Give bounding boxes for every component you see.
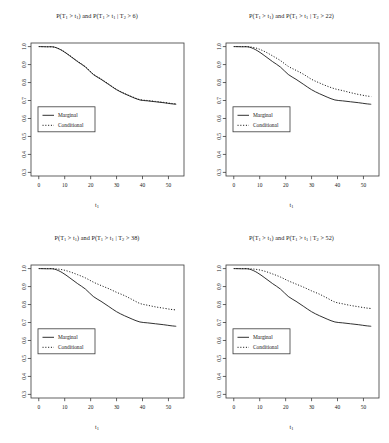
x-tick-label: 40 (334, 403, 340, 409)
legend-label-marginal: Marginal (58, 112, 78, 118)
curve-marginal (233, 47, 370, 105)
y-tick-label: 0.3 (21, 169, 27, 176)
x-axis-label: t1 (195, 424, 389, 430)
y-tick-label: 0.7 (21, 318, 27, 325)
chart-panel-3: P(T1 > t1) and P(T1 > t1 | T2 > 38)0.30.… (0, 222, 194, 443)
x-tick-label: 10 (62, 182, 68, 188)
x-tick-label: 30 (114, 182, 120, 188)
plot-area: 0.30.40.50.60.70.80.91.001020304050Margi… (195, 222, 389, 443)
plot-area: 0.30.40.50.60.70.80.91.001020304050Margi… (195, 0, 389, 221)
x-tick-label: 50 (166, 182, 172, 188)
chart-panel-2: P(T1 > t1) and P(T1 > t1 | T2 > 22)0.30.… (195, 0, 389, 221)
x-tick-label: 50 (360, 182, 366, 188)
legend-label-marginal: Marginal (253, 112, 273, 118)
y-tick-label: 0.7 (215, 97, 221, 104)
x-axis-label: t1 (195, 202, 389, 208)
y-tick-label: 0.8 (215, 300, 221, 307)
curve-marginal (233, 268, 370, 326)
x-tick-label: 30 (308, 182, 314, 188)
x-axis-label: t1 (0, 424, 194, 430)
y-tick-label: 0.5 (215, 354, 221, 361)
x-tick-label: 30 (114, 403, 120, 409)
y-tick-label: 0.4 (21, 151, 27, 158)
y-tick-label: 0.4 (21, 372, 27, 379)
y-tick-label: 0.7 (21, 97, 27, 104)
curve-conditional (233, 268, 370, 308)
x-tick-label: 40 (140, 182, 146, 188)
x-tick-label: 10 (257, 403, 263, 409)
y-tick-label: 0.5 (215, 133, 221, 140)
y-tick-label: 1.0 (215, 43, 221, 50)
plot-area: 0.30.40.50.60.70.80.91.001020304050Margi… (0, 0, 194, 221)
y-tick-label: 0.5 (21, 354, 27, 361)
legend-label-marginal: Marginal (253, 334, 273, 340)
legend-label-conditional: Conditional (253, 344, 279, 350)
x-tick-label: 20 (282, 182, 288, 188)
y-tick-label: 0.5 (21, 133, 27, 140)
x-axis-label: t1 (0, 202, 194, 208)
y-tick-label: 0.9 (215, 61, 221, 68)
legend-label-marginal: Marginal (58, 334, 78, 340)
x-tick-label: 20 (88, 182, 94, 188)
y-tick-label: 0.7 (215, 318, 221, 325)
legend-label-conditional: Conditional (58, 122, 84, 128)
plot-area: 0.30.40.50.60.70.80.91.001020304050Margi… (0, 222, 194, 443)
y-tick-label: 0.8 (21, 300, 27, 307)
y-tick-label: 0.3 (21, 390, 27, 397)
x-tick-label: 10 (62, 403, 68, 409)
y-tick-label: 1.0 (21, 43, 27, 50)
x-tick-label: 10 (257, 182, 263, 188)
y-tick-label: 0.3 (215, 169, 221, 176)
figure-grid: P(T1 > t1) and P(T1 > t1 | T2 > 6)0.30.4… (0, 0, 389, 443)
y-tick-label: 1.0 (21, 264, 27, 271)
x-tick-label: 50 (166, 403, 172, 409)
curve-conditional (39, 268, 176, 309)
y-tick-label: 0.4 (215, 372, 221, 379)
x-tick-label: 0 (37, 403, 40, 409)
chart-panel-4: P(T1 > t1) and P(T1 > t1 | T2 > 52)0.30.… (195, 222, 389, 443)
curve-conditional (39, 47, 176, 104)
x-tick-label: 40 (334, 182, 340, 188)
x-tick-label: 20 (282, 403, 288, 409)
y-tick-label: 0.9 (21, 61, 27, 68)
curve-conditional (233, 47, 370, 97)
y-tick-label: 0.9 (21, 282, 27, 289)
y-tick-label: 1.0 (215, 264, 221, 271)
x-tick-label: 40 (140, 403, 146, 409)
y-tick-label: 0.6 (21, 115, 27, 122)
x-tick-label: 20 (88, 403, 94, 409)
x-tick-label: 50 (360, 403, 366, 409)
y-tick-label: 0.8 (215, 79, 221, 86)
y-tick-label: 0.6 (215, 336, 221, 343)
y-tick-label: 0.6 (21, 336, 27, 343)
curve-marginal (39, 268, 176, 326)
y-tick-label: 0.4 (215, 151, 221, 158)
y-tick-label: 0.8 (21, 79, 27, 86)
x-tick-label: 0 (37, 182, 40, 188)
x-tick-label: 0 (232, 182, 235, 188)
legend-label-conditional: Conditional (253, 122, 279, 128)
y-tick-label: 0.6 (215, 115, 221, 122)
x-tick-label: 30 (308, 403, 314, 409)
chart-panel-1: P(T1 > t1) and P(T1 > t1 | T2 > 6)0.30.4… (0, 0, 194, 221)
curve-marginal (39, 47, 176, 105)
y-tick-label: 0.3 (215, 390, 221, 397)
x-tick-label: 0 (232, 403, 235, 409)
legend-label-conditional: Conditional (58, 344, 84, 350)
y-tick-label: 0.9 (215, 282, 221, 289)
